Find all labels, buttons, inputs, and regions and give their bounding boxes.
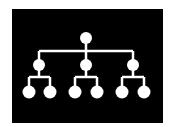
root-node	[80, 32, 92, 44]
mid-node-3	[127, 59, 139, 71]
org-chart-diagram	[0, 0, 172, 127]
leaf-node-3-2	[138, 86, 151, 99]
mid-node-2	[80, 59, 92, 71]
mid-node-1	[33, 59, 45, 71]
leaf-node-2-1	[69, 86, 82, 99]
leaf-node-2-2	[91, 86, 104, 99]
leaf-node-3-1	[116, 86, 129, 99]
leaf-node-1-2	[44, 86, 57, 99]
leaf-node-1-1	[23, 86, 36, 99]
